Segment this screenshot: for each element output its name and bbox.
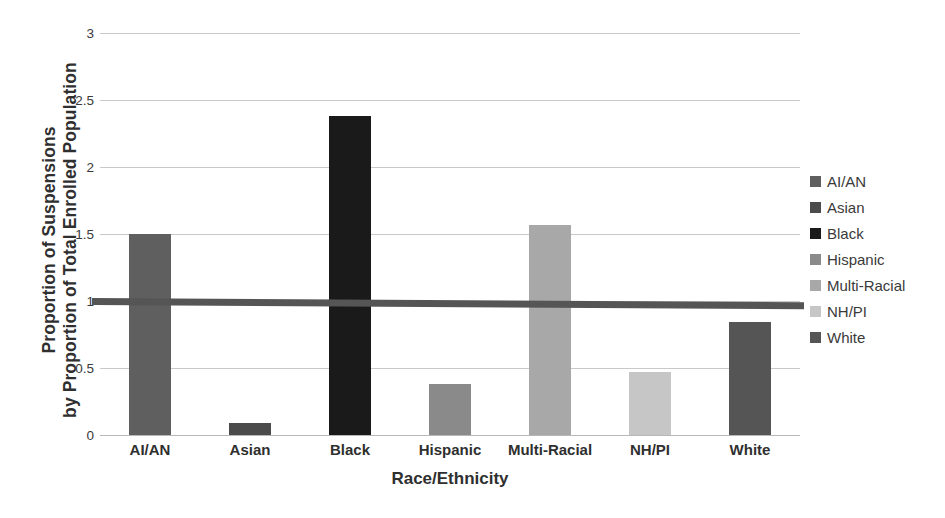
x-tick-label: White — [730, 441, 771, 458]
legend-item-ai-an[interactable]: AI/AN — [810, 168, 940, 194]
bar-multi-racial[interactable] — [529, 225, 571, 435]
y-tick-label: 2.5 — [48, 93, 94, 108]
y-tick-label: 3 — [48, 26, 94, 41]
x-tick-label: Black — [330, 441, 370, 458]
legend-label: Multi-Racial — [827, 277, 905, 294]
chart-figure: Proportion of Suspensions by Proportion … — [0, 0, 945, 518]
legend-label: Hispanic — [827, 251, 885, 268]
legend-item-asian[interactable]: Asian — [810, 194, 940, 220]
x-axis-title: Race/Ethnicity — [100, 469, 800, 489]
x-tick-label: Hispanic — [419, 441, 482, 458]
x-tick-label: NH/PI — [630, 441, 670, 458]
x-tick-label: Multi-Racial — [508, 441, 592, 458]
x-axis-tick-labels: AI/ANAsianBlackHispanicMulti-RacialNH/PI… — [100, 441, 800, 467]
y-tick-label: 1 — [48, 294, 94, 309]
chart-legend: AI/ANAsianBlackHispanicMulti-RacialNH/PI… — [810, 168, 940, 350]
bar-ai-an[interactable] — [129, 234, 171, 435]
bar-series — [100, 33, 800, 435]
y-tick-label: 0.5 — [48, 361, 94, 376]
legend-swatch-icon — [810, 254, 821, 265]
legend-label: Asian — [827, 199, 865, 216]
legend-swatch-icon — [810, 228, 821, 239]
legend-item-nh-pi[interactable]: NH/PI — [810, 298, 940, 324]
legend-swatch-icon — [810, 176, 821, 187]
legend-item-black[interactable]: Black — [810, 220, 940, 246]
legend-item-hispanic[interactable]: Hispanic — [810, 246, 940, 272]
y-axis-tick-labels: 00.511.522.53 — [42, 0, 94, 518]
legend-label: White — [827, 329, 865, 346]
legend-swatch-icon — [810, 306, 821, 317]
y-tick-label: 0 — [48, 428, 94, 443]
legend-swatch-icon — [810, 332, 821, 343]
legend-item-multi-racial[interactable]: Multi-Racial — [810, 272, 940, 298]
legend-swatch-icon — [810, 280, 821, 291]
bar-nh-pi[interactable] — [629, 372, 671, 435]
legend-item-white[interactable]: White — [810, 324, 940, 350]
x-tick-label: Asian — [230, 441, 271, 458]
legend-label: Black — [827, 225, 864, 242]
bar-hispanic[interactable] — [429, 384, 471, 435]
legend-label: NH/PI — [827, 303, 867, 320]
legend-swatch-icon — [810, 202, 821, 213]
bar-black[interactable] — [329, 116, 371, 435]
y-tick-label: 1.5 — [48, 227, 94, 242]
y-tick-label: 2 — [48, 160, 94, 175]
gridline — [100, 435, 800, 436]
plot-area — [100, 33, 800, 435]
bar-asian[interactable] — [229, 423, 271, 435]
x-tick-label: AI/AN — [130, 441, 171, 458]
bar-white[interactable] — [729, 322, 771, 435]
legend-label: AI/AN — [827, 173, 866, 190]
